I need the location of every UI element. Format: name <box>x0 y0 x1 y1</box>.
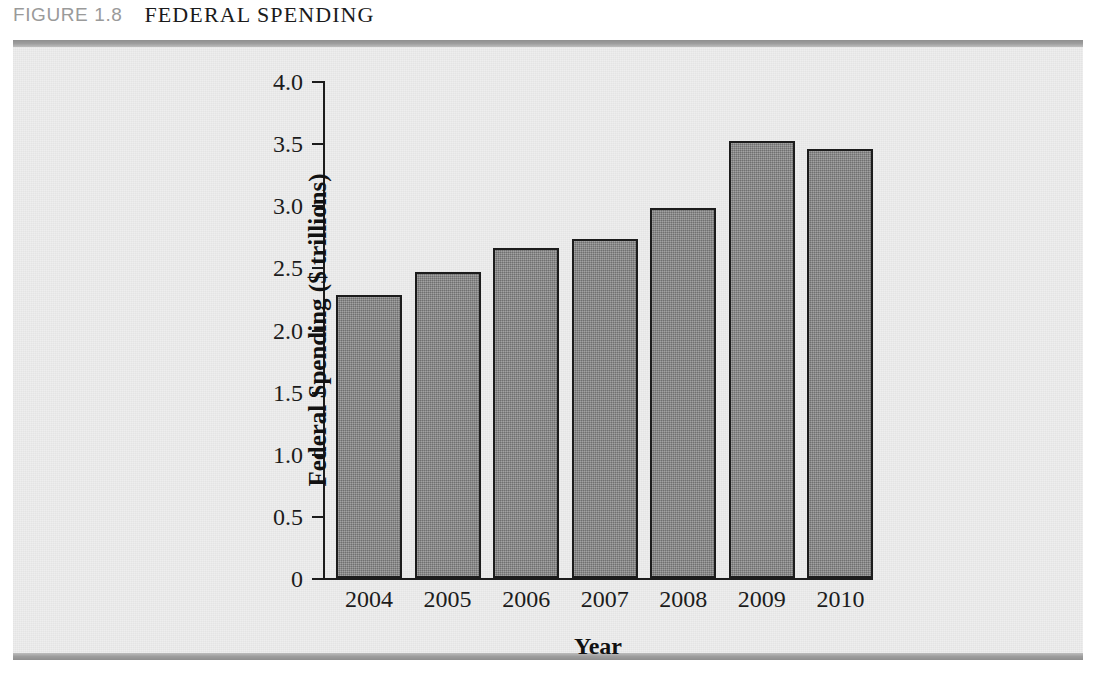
x-tick-label: 2009 <box>729 586 795 613</box>
x-axis-line <box>323 578 873 580</box>
x-tick-label: 2010 <box>807 586 873 613</box>
x-axis-title: Year <box>323 633 873 660</box>
y-tick-label: 0 <box>291 566 303 593</box>
x-tick-label: 2004 <box>336 586 402 613</box>
y-tick-mark: 4.0 <box>312 81 323 83</box>
x-tick-label: 2006 <box>493 586 559 613</box>
y-tick-label: 1.0 <box>273 441 303 468</box>
y-tick-label: 3.0 <box>273 193 303 220</box>
bar <box>729 141 795 578</box>
y-tick-label: 4.0 <box>273 69 303 96</box>
figure-panel: 00.51.01.52.02.53.03.54.0 Federal Spendi… <box>13 40 1083 660</box>
figure-title: FEDERAL SPENDING <box>144 2 374 28</box>
bar <box>650 208 716 578</box>
bar <box>415 272 481 578</box>
y-tick-label: 3.5 <box>273 131 303 158</box>
x-tick-label: 2007 <box>572 586 638 613</box>
y-tick-label: 2.0 <box>273 317 303 344</box>
figure-page: FIGURE 1.8 FEDERAL SPENDING 00.51.01.52.… <box>0 0 1095 676</box>
y-tick-label: 2.5 <box>273 255 303 282</box>
y-tick-label: 1.5 <box>273 379 303 406</box>
y-tick-mark: 0 <box>312 578 323 580</box>
x-tick-label: 2005 <box>415 586 481 613</box>
x-tick-label: 2008 <box>650 586 716 613</box>
bar <box>572 239 638 578</box>
bar-series <box>323 81 885 578</box>
plot-area: 00.51.01.52.02.53.03.54.0 Federal Spendi… <box>323 81 885 578</box>
y-tick-label: 0.5 <box>273 503 303 530</box>
figure-number: FIGURE 1.8 <box>13 4 122 26</box>
bar <box>493 248 559 579</box>
figure-caption: FIGURE 1.8 FEDERAL SPENDING <box>13 0 375 30</box>
bar-chart: 00.51.01.52.02.53.03.54.0 Federal Spendi… <box>13 40 1083 660</box>
bar <box>807 149 873 578</box>
bar <box>336 295 402 578</box>
